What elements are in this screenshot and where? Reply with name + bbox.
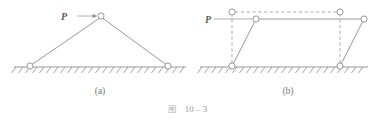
diagram-a-group: P (a): [12, 11, 187, 98]
displaced-left-link-b: [234, 22, 255, 64]
joint-right-pivot-b: [337, 63, 343, 69]
ground-hatch-a: [12, 67, 185, 73]
displaced-position-b: [234, 19, 363, 63]
member-right-a: [103, 19, 166, 65]
joint-apex-a: [98, 13, 104, 19]
joint-original-top-right-b: [337, 9, 343, 15]
joint-left-support-a: [27, 63, 33, 69]
ground-support-a: [12, 67, 187, 73]
load-label-b: P: [205, 14, 212, 25]
joint-displaced-top-right-b: [361, 16, 367, 22]
displaced-right-link-b: [342, 22, 363, 64]
subfigure-label-b: (b): [282, 86, 293, 97]
load-arrow-a: [77, 14, 97, 18]
joints-a: [27, 13, 171, 69]
load-arrow-head-a: [93, 14, 98, 18]
figure-10-3: P (a): [0, 0, 380, 121]
joint-displaced-top-left-b: [253, 16, 259, 22]
load-label-a: P: [61, 11, 68, 22]
joints-b: [229, 9, 367, 69]
diagram-b-group: P (b): [198, 9, 369, 97]
figure-caption: 图 10 – 3: [168, 104, 208, 114]
joint-right-support-a: [165, 63, 171, 69]
caption-figure-number: 10 – 3: [185, 104, 208, 114]
joint-original-top-left-b: [229, 9, 235, 15]
original-position-b: [232, 12, 340, 63]
caption-figure-symbol: 图: [168, 104, 177, 114]
subfigure-label-a: (a): [95, 86, 106, 97]
truss-members-a: [32, 19, 166, 65]
figure-canvas: P (a): [0, 0, 380, 121]
member-left-a: [32, 19, 99, 65]
joint-left-pivot-b: [229, 63, 235, 69]
